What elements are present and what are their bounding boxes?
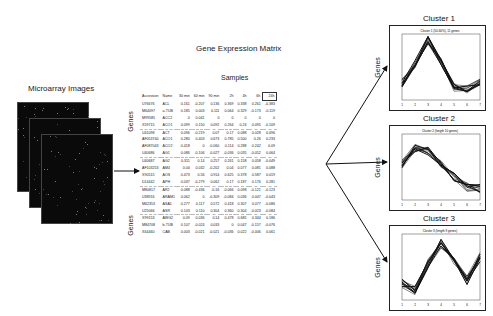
table-cell: -0.202 [207, 165, 222, 172]
svg-text:7: 7 [479, 103, 481, 107]
svg-text:6: 6 [466, 303, 468, 307]
svg-text:3: 3 [427, 103, 429, 107]
table-cell: -0.084 [263, 208, 277, 215]
svg-text:6: 6 [466, 203, 468, 207]
table-cell: 0.403 [192, 136, 207, 143]
cluster-title: Cluster 3 [389, 214, 489, 223]
table-cell: ACO2 [161, 143, 177, 150]
table-cell: X64460 [140, 229, 161, 236]
col-header: 2h [221, 93, 235, 101]
table-cell: 0.56 [192, 172, 207, 179]
table-cell: 0.17 [221, 179, 235, 186]
table-cell: 0.036 [192, 215, 207, 222]
table-cell: 0.14 [192, 158, 207, 165]
table-cell: U40686 [140, 150, 161, 157]
table-cell: 0.111 [207, 108, 222, 115]
table-cell: 0.035 [236, 150, 249, 157]
table-cell: U38916 [140, 194, 161, 201]
table-cell: 0.685 [236, 215, 249, 222]
table-cell: 0.114 [221, 143, 235, 150]
table-cell: 0.086 [177, 150, 192, 157]
table-cell: a-TUB [161, 108, 177, 115]
table-cell: 0.117 [192, 201, 207, 208]
table-cell: 0.019 [263, 172, 277, 179]
table-row: U38916ARAM10.0620-0.309-0.0840.0360.047-… [140, 194, 277, 201]
table-cell: 0.022 [236, 229, 249, 236]
samples-label: Samples [221, 74, 248, 81]
table-cell: AF103253 [140, 165, 161, 172]
table-cell: -0.024 [192, 222, 207, 229]
table-cell: 0.150 [192, 122, 207, 129]
table-row: M84708b-TUB0.107-0.0240.03300.047-0.157-… [140, 222, 277, 229]
table-cell: AF053740 [140, 136, 161, 143]
table-cell: 0.032 [192, 165, 207, 172]
table-cell: 0.277 [177, 201, 192, 208]
table-cell: 0.003 [177, 229, 192, 236]
table-cell: 0.304 [236, 208, 249, 215]
cluster-title: Cluster 2 [389, 114, 489, 123]
table-cell: 0.096 [263, 129, 277, 136]
table-cell: 0.107 [177, 222, 192, 229]
table-cell: -0.052 [249, 150, 263, 157]
table-cell: X90515 [140, 172, 161, 179]
svg-text:4: 4 [440, 103, 442, 107]
table-cell: 0.062 [207, 179, 222, 186]
table-cell: 0.261 [249, 100, 263, 107]
table-cell: 0.081 [249, 165, 263, 172]
svg-text:4: 4 [440, 303, 442, 307]
table-cell: 0 [207, 115, 222, 122]
table-cell: APH [161, 179, 177, 186]
table-cell: 0.04 [221, 165, 235, 172]
expression-matrix: Accession Name 30 min 60 min 90 min 2h 4… [140, 92, 277, 236]
svg-text:6: 6 [466, 103, 468, 107]
table-cell: M84708 [140, 222, 161, 229]
svg-text:5: 5 [453, 103, 455, 107]
table-cell: AOS [161, 172, 177, 179]
table-cell: 0.329 [236, 108, 249, 115]
table-cell: 0.099 [177, 122, 192, 129]
table-cell: 0.041 [192, 115, 207, 122]
col-header: 6h [249, 93, 263, 101]
table-cell: 0 [192, 143, 207, 150]
svg-text:5: 5 [453, 203, 455, 207]
table-cell: -0.023 [249, 208, 263, 215]
table-cell: 0.625 [221, 172, 235, 179]
table-cell: 0.257 [207, 158, 222, 165]
table-cell: 0.088 [177, 186, 192, 193]
svg-text:Cluster 1 (50-60%), 11 genes: Cluster 1 (50-60%), 11 genes [421, 29, 460, 33]
svg-text:2: 2 [414, 103, 416, 107]
table-cell: ARAM1 [161, 194, 177, 201]
table-cell: 0.26 [249, 136, 263, 143]
table-cell: 0 [221, 115, 235, 122]
table-cell: 0.037 [177, 179, 192, 186]
table-cell: -0.123 [263, 186, 277, 193]
table-cell: 0.418 [221, 201, 235, 208]
table-cell: -0.043 [263, 194, 277, 201]
table-row: M64097a-TUB0.1850.0030.1110.0640.329-0.1… [140, 108, 277, 115]
table-cell: U76676 [140, 100, 161, 107]
table-cell: 0.304 [207, 208, 222, 215]
table-cell: 0.058 [249, 158, 263, 165]
table-cell: 0.185 [177, 108, 192, 115]
expression-table: Accession Name 30 min 60 min 90 min 2h 4… [140, 92, 277, 236]
genes-label-top: Genes [127, 111, 134, 132]
svg-text:3: 3 [427, 203, 429, 207]
table-cell: 0 [236, 115, 249, 122]
svg-text:7: 7 [479, 203, 481, 207]
table-cell: 0.095 [249, 122, 263, 129]
table-cell: 0.098 [236, 186, 249, 193]
table-cell: 0 [177, 115, 192, 122]
genes-label-bottom: Genes [127, 215, 134, 236]
table-cell: -0.066 [221, 186, 235, 193]
table-row: U25066ASR0.1030.1100.3040.3600.304-0.023… [140, 208, 277, 215]
table-cell: -0.121 [249, 186, 263, 193]
table-cell: 0.280 [177, 136, 192, 143]
table-cell: b-TUB [161, 222, 177, 229]
table-cell: 0.092 [207, 122, 222, 129]
table-cell: 0.062 [177, 194, 192, 201]
table-cell: -0.036 [221, 150, 235, 157]
table-cell: 0.064 [221, 108, 235, 115]
table-cell: 0.281 [263, 179, 277, 186]
table-cell: 0.264 [221, 122, 235, 129]
svg-text:3: 3 [427, 303, 429, 307]
